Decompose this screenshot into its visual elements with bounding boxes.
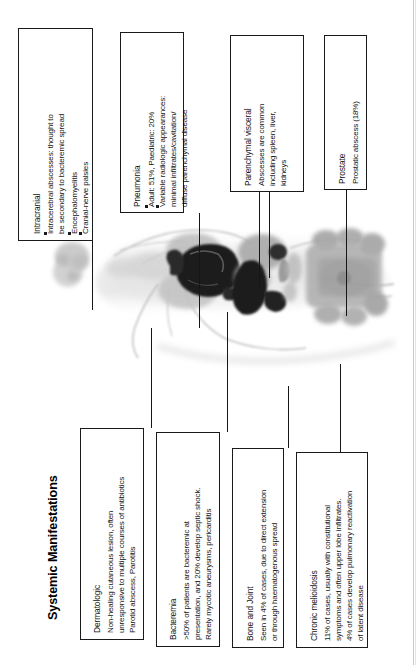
figure-root: Systemic Manifestations Intracranial Int…	[0, 0, 416, 665]
callout-chronic-melioidosis-line-4: 4% of cases develop pulmonary reactivati…	[344, 491, 355, 641]
callout-parenchymal-line-4: kidneys	[278, 160, 289, 186]
callout-chronic-melioidosis-heading: Chronic melioidosis	[309, 570, 321, 641]
callout-pneumonia-heading: Pneumonia	[132, 166, 144, 207]
callout-bacteremia-line-2: >50% of patients are bacteremic at	[181, 521, 192, 640]
callout-prostate-line-2: Prostatic abscess (18%)	[350, 101, 361, 184]
callout-parenchymal-line-2: Abscesses are common	[256, 104, 267, 186]
callout-bone-and-joint-heading: Bone and Joint	[245, 587, 257, 641]
leader-line-bone-and-joint	[288, 386, 289, 448]
leader-line-bacteremia	[227, 312, 228, 432]
bullet-icon	[44, 232, 47, 235]
callout-pneumonia-bullet-2-line-1: Variable radiologic appearances:	[157, 96, 168, 207]
callout-bacteremia-heading: Bacteremia	[168, 599, 180, 640]
leader-line-parenchymal-b	[269, 192, 270, 278]
callout-dermatologic-line-3: unresponsive to multiple courses of anti…	[116, 477, 127, 633]
callout-chronic-melioidosis-line-3: symptoms and often upper lobe infiltrate…	[333, 499, 344, 641]
bullet-icon	[145, 205, 148, 208]
page-edge-rule	[413, 0, 414, 665]
callout-dermatologic-line-4: Parotid abscess, Parotitis	[127, 547, 138, 633]
callout-bone-and-joint: Bone and Joint Seen in 4% of cases, due …	[232, 448, 284, 648]
bullet-icon	[79, 232, 82, 235]
callout-parenchymal-line-3: including spleen, liver,	[267, 111, 278, 186]
callout-pneumonia: Pneumonia Adult: 51%, Paediatric: 20% Va…	[120, 32, 184, 213]
callout-intracranial-bullet-3: Cranial-nerve palsies	[80, 162, 91, 234]
callout-pneumonia-bullet-1: Adult: 51%, Paediatric: 20%	[146, 112, 157, 207]
callout-dermatologic-line-2: Non-healing cutaneous lesion, often	[105, 511, 116, 633]
bullet-icon	[156, 205, 159, 208]
callout-intracranial: Intracranial Intracerebral abscesses: th…	[18, 28, 93, 241]
callout-pneumonia-bullet-2-line-2: minimal infiltrates/cavitation/	[168, 112, 179, 207]
callout-bone-and-joint-line-2: Seen in 4% of cases, due to direct exten…	[258, 490, 269, 641]
callout-chronic-melioidosis-line-5: of latent disease	[355, 585, 366, 641]
callout-dermatologic: Dermatologic Non-healing cutaneous lesio…	[80, 428, 144, 640]
page-title: Systemic Manifestations	[46, 475, 60, 620]
callout-bacteremia-line-4: Rarely mycotic aneurysms, pericarditis	[203, 509, 214, 640]
callout-intracranial-bullet-2: Encephalomyelitis	[69, 172, 80, 234]
leader-line-prostate	[346, 190, 347, 316]
callout-parenchymal-visceral: Parenchymal visceral Abscesses are commo…	[230, 35, 304, 192]
callout-dermatologic-heading: Dermatologic	[92, 585, 104, 633]
callout-chronic-melioidosis: Chronic melioidosis 11% of cases, usuall…	[296, 452, 368, 648]
leader-line-chronic-melioidosis	[340, 364, 341, 452]
leader-line-intracranial	[92, 241, 93, 310]
callout-chronic-melioidosis-line-2: 11% of cases, usually with constitutiona…	[322, 505, 333, 641]
callout-bone-and-joint-line-3: or through haematogenous spread	[269, 523, 280, 641]
leader-line-parenchymal-a	[259, 192, 260, 288]
callout-intracranial-bullet-1-line-2: be secondary to bacteremic spread	[56, 114, 67, 234]
leader-line-dermatologic	[151, 328, 152, 428]
callout-intracranial-bullet-1-line-1: Intracerebral abscesses: thought to	[45, 114, 56, 234]
callout-parenchymal-heading: Parenchymal visceral	[243, 108, 255, 186]
callout-prostate-heading: Prostate	[337, 154, 349, 184]
callout-intracranial-heading: Intracranial	[32, 194, 44, 234]
callout-prostate: Prostate Prostatic abscess (18%)	[324, 35, 367, 190]
bullet-icon	[68, 232, 71, 235]
leader-line-pneumonia	[199, 213, 200, 328]
callout-pneumonia-bullet-2-line-3: diffuse parenchymal disease	[179, 110, 190, 207]
callout-bacteremia-line-3: presentation, and 20% develop septic sho…	[192, 488, 203, 640]
callout-bacteremia: Bacteremia >50% of patients are bacterem…	[156, 432, 220, 647]
